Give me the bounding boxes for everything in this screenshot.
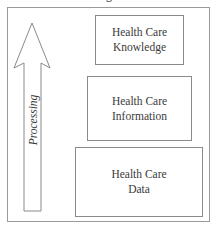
data-line2: Data [111,182,166,197]
information-line1: Health Care [112,94,167,109]
health-care-knowledge-box: Health Care Knowledge [95,15,184,65]
information-line2: Information [112,109,167,124]
knowledge-line1: Health Care [112,25,167,40]
data-line1: Health Care [111,167,166,182]
knowledge-line2: Knowledge [112,40,167,55]
health-care-information-box: Health Care Information [87,76,192,141]
health-care-data-box: Health Care Data [75,147,203,217]
processing-label: Processing [27,95,39,146]
